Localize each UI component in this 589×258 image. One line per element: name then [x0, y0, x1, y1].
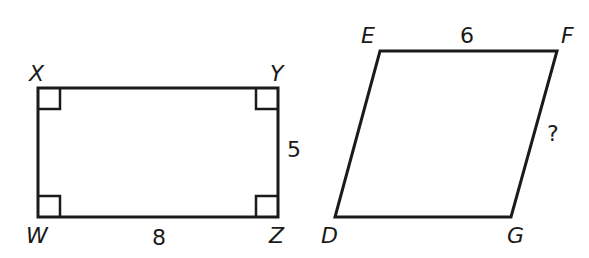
vertex-label-y: Y — [270, 61, 285, 86]
side-label-fg: ? — [547, 121, 559, 146]
side-label-ef: 6 — [460, 23, 474, 48]
right-angle-mark-z — [256, 196, 278, 217]
diagram-canvas: X Y Z W 5 8 E F G D 6 ? — [0, 0, 589, 258]
side-label-wz: 8 — [152, 225, 166, 250]
right-angle-mark-w — [38, 196, 60, 217]
parallelogram-outline — [335, 51, 557, 217]
vertex-label-g: G — [507, 223, 524, 248]
side-label-yz: 5 — [287, 137, 301, 162]
parallelogram-defg: E F G D 6 ? — [321, 23, 574, 248]
rectangle-outline — [38, 88, 278, 217]
right-angle-mark-x — [38, 88, 60, 109]
vertex-label-w: W — [26, 223, 49, 248]
vertex-label-z: Z — [268, 223, 285, 248]
right-angle-mark-y — [256, 88, 278, 109]
vertex-label-d: D — [321, 223, 338, 248]
rectangle-wxyz: X Y Z W 5 8 — [26, 61, 301, 250]
vertex-label-f: F — [561, 23, 574, 48]
vertex-label-x: X — [28, 61, 45, 86]
vertex-label-e: E — [361, 23, 375, 48]
